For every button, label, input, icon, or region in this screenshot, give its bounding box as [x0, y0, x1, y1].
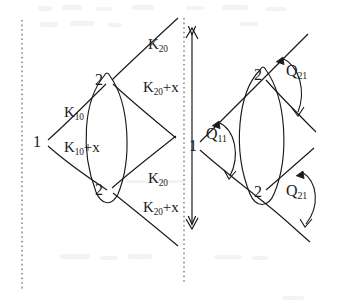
label-k20-plus-x-top-suffix: +x [163, 79, 179, 95]
label-q21-bottom-sub: 21 [298, 190, 308, 201]
label-k20-plus-x-bottom: K20+x [143, 200, 179, 215]
right-node-1-label: 1 [189, 138, 197, 154]
label-k10-sub: 10 [75, 112, 84, 122]
label-k20-bottom-base: K [148, 170, 159, 186]
label-k10-base: K [64, 104, 75, 120]
label-k20-plus-x-bottom-base: K [143, 199, 154, 215]
label-k10-plus-x-sub: 10 [75, 147, 84, 157]
label-k20-bottom: K20 [148, 171, 168, 186]
diagram-canvas: 1 2 2 K10 K10+x K20 K20+x K20 K20+x 1 2 … [0, 0, 338, 308]
label-k20-plus-x-bottom-suffix: +x [163, 199, 179, 215]
arrowhead-icon-q21-top-start [276, 57, 284, 65]
label-q21-top-base: Q [286, 62, 298, 79]
right-node-2-bottom-label: 2 [254, 184, 262, 200]
label-k20-top-base: K [148, 36, 159, 52]
label-q21-top: Q21 [286, 63, 307, 79]
left-node-2-bottom-label: 2 [95, 182, 103, 198]
label-q21-bottom-base: Q [286, 182, 298, 199]
arrowhead-icon-q21-bottom-start [296, 171, 304, 179]
label-k20-top: K20 [148, 37, 168, 52]
label-q11-base: Q [206, 125, 218, 142]
diagram-svg [0, 0, 338, 308]
right-node-2-top-label: 2 [254, 67, 262, 83]
label-q11: Q11 [206, 126, 227, 142]
label-k10-plus-x: K10+x [64, 140, 100, 155]
right-ray-upper-branch [266, 80, 316, 132]
label-k20-plus-x-bottom-sub: 20 [154, 207, 163, 217]
label-q21-top-sub: 21 [298, 70, 308, 81]
label-q11-sub: 11 [218, 133, 227, 144]
label-k20-plus-x-top-base: K [143, 79, 154, 95]
label-k20-bottom-sub: 20 [159, 178, 168, 188]
left-node-2-top-label: 2 [95, 72, 103, 88]
left-ray-k20-top [112, 18, 178, 80]
label-k10: K10 [64, 105, 84, 120]
arrowhead-icon-q21-bottom-end [300, 219, 312, 227]
left-lens-shape-icon [86, 73, 127, 203]
label-k20-plus-x-top: K20+x [143, 80, 179, 95]
label-k20-top-sub: 20 [159, 44, 168, 54]
label-k10-plus-x-suffix: +x [84, 139, 100, 155]
label-q21-bottom: Q21 [286, 183, 307, 199]
left-node-1-label: 1 [33, 134, 41, 150]
label-k20-plus-x-top-sub: 20 [154, 87, 163, 97]
label-k10-plus-x-base: K [64, 139, 75, 155]
